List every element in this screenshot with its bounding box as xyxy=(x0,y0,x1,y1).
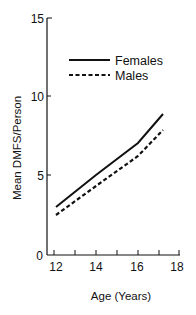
legend-males-label: Males xyxy=(115,69,148,83)
x-tick-label-18: 18 xyxy=(170,260,184,274)
line-chart: 15 10 5 0 12 14 16 18 Age (Years) Mean D… xyxy=(0,0,196,315)
y-tick-label-15: 15 xyxy=(31,12,45,26)
legend: Females Males xyxy=(69,54,163,83)
x-tick-label-16: 16 xyxy=(130,260,144,274)
y-axis-title: Mean DMFS/Person xyxy=(11,96,23,200)
y-tick-label-0: 0 xyxy=(36,249,43,263)
x-tick-label-14: 14 xyxy=(89,260,103,274)
legend-females-label: Females xyxy=(115,54,163,68)
x-tick-label-12: 12 xyxy=(49,260,63,274)
y-tick-label-10: 10 xyxy=(31,90,45,104)
series-males-line xyxy=(56,130,163,215)
x-axis-title: Age (Years) xyxy=(91,290,151,302)
y-tick-label-5: 5 xyxy=(37,169,44,183)
x-ticks xyxy=(54,250,179,255)
series-females-line xyxy=(56,114,163,207)
